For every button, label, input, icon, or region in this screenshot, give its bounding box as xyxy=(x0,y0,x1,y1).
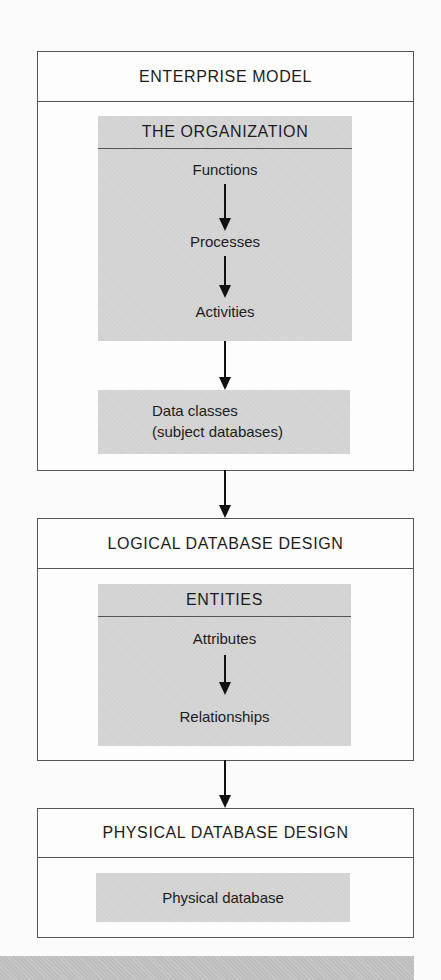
physical-design-title-text: PHYSICAL DATABASE DESIGN xyxy=(102,824,348,842)
arrow-down-icon xyxy=(219,184,231,231)
organization-header-text: THE ORGANIZATION xyxy=(142,123,309,141)
enterprise-model-title: ENTERPRISE MODEL xyxy=(38,52,413,102)
arrow-down-icon xyxy=(219,341,231,390)
logical-design-title-text: LOGICAL DATABASE DESIGN xyxy=(108,535,344,553)
bottom-shaded-band xyxy=(0,956,414,980)
step-attributes: Attributes xyxy=(98,630,351,647)
step-functions: Functions xyxy=(98,161,352,178)
physical-design-frame: PHYSICAL DATABASE DESIGN Physical databa… xyxy=(37,808,414,938)
arrow-down-icon xyxy=(219,256,231,298)
enterprise-model-title-text: ENTERPRISE MODEL xyxy=(139,68,312,86)
data-classes-box: Data classes (subject databases) xyxy=(98,390,350,454)
subject-databases-label: (subject databases) xyxy=(152,423,283,440)
step-processes: Processes xyxy=(98,233,352,250)
physical-database-label: Physical database xyxy=(162,889,284,906)
step-activities: Activities xyxy=(98,303,352,320)
arrow-down-icon xyxy=(219,760,231,808)
physical-database-box: Physical database xyxy=(96,873,350,922)
enterprise-model-frame: ENTERPRISE MODEL THE ORGANIZATION Functi… xyxy=(37,51,414,471)
data-classes-label: Data classes xyxy=(152,402,238,419)
entities-header: ENTITIES xyxy=(98,584,351,617)
step-relationships: Relationships xyxy=(98,708,351,725)
physical-design-title: PHYSICAL DATABASE DESIGN xyxy=(38,809,413,858)
organization-header: THE ORGANIZATION xyxy=(98,116,352,149)
arrow-down-icon xyxy=(219,470,231,518)
entities-box: ENTITIES Attributes Relationships xyxy=(98,584,351,746)
logical-design-frame: LOGICAL DATABASE DESIGN ENTITIES Attribu… xyxy=(37,518,414,761)
entities-header-text: ENTITIES xyxy=(186,591,263,609)
organization-box: THE ORGANIZATION Functions Processes Act… xyxy=(98,116,352,341)
logical-design-title: LOGICAL DATABASE DESIGN xyxy=(38,519,413,569)
arrow-down-icon xyxy=(219,655,231,695)
